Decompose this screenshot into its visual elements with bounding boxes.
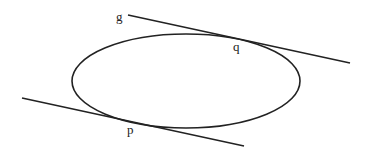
diagram-canvas: g q p <box>0 0 367 154</box>
label-q: q <box>233 39 240 54</box>
label-p: p <box>127 122 134 137</box>
label-g: g <box>116 9 123 24</box>
ellipse <box>72 34 300 128</box>
